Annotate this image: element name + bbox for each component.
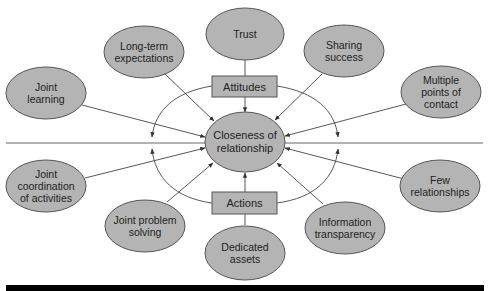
label-attitudes: Attitudes [212,76,277,97]
arc-attitudes-right [277,86,338,137]
label-joint-coordination: Joint coordination of activities [6,160,86,212]
relationship-closeness-diagram: Trust Long-term expectations Sharing suc… [0,0,490,291]
label-trust: Trust [206,8,284,60]
label-multiple-points-of-contact: Multiple points of contact [401,66,481,118]
link-coordination-center [85,148,205,178]
label-joint-problem-solving: Joint problem solving [105,200,185,252]
label-sharing-success: Sharing success [304,25,384,77]
label-few-relationships: Few relationships [400,160,480,212]
label-long-term-expectations: Long-term expectations [104,26,184,78]
link-few-center [285,148,404,179]
bottom-bar [6,285,484,291]
link-contact-center [285,104,406,136]
arc-actions-right [277,149,338,203]
arc-actions-left [152,149,212,203]
label-information-transparency: Information transparency [305,202,385,254]
label-dedicated-assets: Dedicated assets [205,226,285,280]
arc-attitudes-left [152,86,212,137]
label-actions: Actions [212,192,277,214]
label-joint-learning: Joint learning [6,67,86,119]
link-learning-center [82,105,205,137]
label-center: Closeness of relationship [205,112,285,172]
